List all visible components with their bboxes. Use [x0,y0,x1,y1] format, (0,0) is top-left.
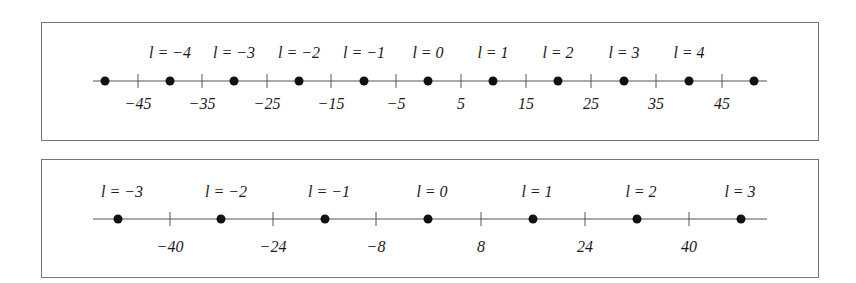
lattice-point-dot [554,77,563,86]
tick-label: −25 [254,95,281,112]
lattice-point-dot [620,77,629,86]
bottom-panel: −40−24−882440l = −3l = −2l = −1l = 0l = … [42,160,819,278]
lattice-point-dot [489,77,498,86]
lattice-point-dot [230,77,239,86]
level-label: l = 2 [542,44,573,61]
tick-label: −15 [318,95,345,112]
lattice-point-dot [101,77,110,86]
tick-label: 8 [477,238,485,255]
level-label: l = 0 [416,183,447,200]
level-label: l = −2 [278,44,320,61]
level-label: l = 0 [412,44,443,61]
lattice-point-dot [685,77,694,86]
lattice-point-dot [424,215,433,224]
top-panel: −45−35−25−15−5515253545l = −4l = −3l = −… [42,23,819,141]
lattice-point-dot [114,215,123,224]
lattice-point-dot [633,215,642,224]
tick-label: 24 [577,238,593,255]
lattice-point-dot [750,77,759,86]
level-label: l = 4 [673,44,704,61]
tick-label: −40 [157,238,184,255]
tick-label: −5 [387,95,406,112]
level-label: l = −2 [205,183,247,200]
level-label: l = 1 [521,183,552,200]
tick-label: −45 [125,95,152,112]
number-line-diagram: −45−35−25−15−5515253545l = −4l = −3l = −… [0,0,856,283]
lattice-point-dot [737,215,746,224]
tick-label: 45 [714,95,730,112]
tick-label: 25 [583,95,599,112]
tick-label: 15 [518,95,534,112]
level-label: l = 2 [625,183,656,200]
tick-label: 5 [457,95,465,112]
lattice-point-dot [360,77,369,86]
tick-label: 35 [647,95,664,112]
level-label: l = 3 [724,183,755,200]
lattice-point-dot [529,215,538,224]
level-label: l = −1 [308,183,350,200]
level-label: l = −4 [149,44,191,61]
level-label: l = 3 [608,44,639,61]
tick-label: −35 [189,95,216,112]
lattice-point-dot [295,77,304,86]
lattice-point-dot [217,215,226,224]
lattice-point-dot [166,77,175,86]
tick-label: −24 [260,238,287,255]
tick-label: 40 [681,238,697,255]
tick-label: −8 [367,238,386,255]
lattice-point-dot [424,77,433,86]
level-label: l = 1 [477,44,508,61]
level-label: l = −1 [343,44,385,61]
lattice-point-dot [321,215,330,224]
level-label: l = −3 [213,44,255,61]
level-label: l = −3 [101,183,143,200]
